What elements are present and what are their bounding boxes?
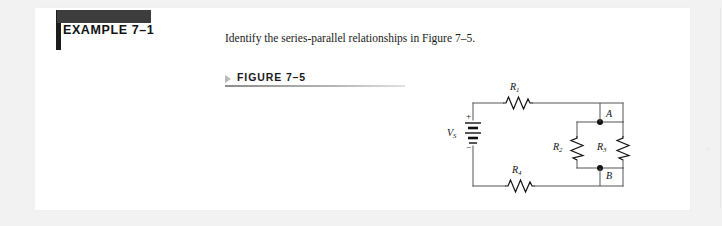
resistor-r1: R1 — [503, 81, 533, 109]
source-label: VS — [447, 127, 457, 139]
page-right-edge — [720, 8, 721, 208]
resistor-r4: R4 — [505, 164, 535, 192]
document-page: EXAMPLE 7–1 Identify the series-parallel… — [35, 8, 690, 210]
resistor-r3-label: R3 — [596, 141, 607, 153]
resistor-r2-label: R2 — [552, 141, 563, 153]
voltage-source-symbol — [465, 123, 481, 143]
resistor-r2: R2 — [552, 136, 583, 160]
node-a-label: A — [605, 108, 613, 119]
example-header-bar — [57, 10, 151, 23]
source-minus-sign: − — [466, 142, 471, 152]
example-title: EXAMPLE 7–1 — [63, 23, 154, 37]
page-corner-mark — [706, 147, 710, 151]
circuit-diagram: + − VS R1 R4 — [425, 68, 655, 208]
node-b-label: B — [606, 170, 612, 181]
source-plus-sign: + — [466, 111, 471, 121]
resistor-r4-label: R4 — [511, 164, 522, 176]
example-prompt-text: Identify the series-parallel relationshi… — [225, 32, 475, 44]
figure-label: FIGURE 7–5 — [237, 71, 306, 83]
figure-rule — [225, 85, 405, 87]
resistor-r3: R3 — [596, 136, 629, 160]
circuit-svg: + − VS R1 R4 — [425, 68, 655, 208]
resistor-r1-label: R1 — [509, 81, 520, 93]
triangle-right-icon — [225, 75, 231, 83]
